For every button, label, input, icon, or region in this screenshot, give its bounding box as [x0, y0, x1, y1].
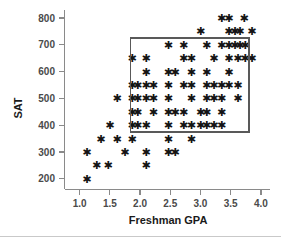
data-point: ✱: [217, 92, 226, 105]
data-point: ✱: [224, 66, 233, 79]
data-point: ✱: [187, 133, 196, 146]
data-point: ✱: [141, 66, 150, 79]
data-point: ✱: [202, 66, 211, 79]
data-point: ✱: [233, 79, 242, 92]
data-point: ✱: [224, 52, 233, 65]
data-point: ✱: [82, 146, 91, 159]
data-point: ✱: [120, 146, 129, 159]
data-point: ✱: [141, 146, 150, 159]
x-axis-title: Freshman GPA: [129, 214, 208, 226]
x-tick-label: 4.0: [254, 198, 268, 209]
data-point: ✱: [96, 133, 105, 146]
data-point: ✱: [224, 79, 233, 92]
x-tick-label: 2.0: [133, 198, 147, 209]
data-point: ✱: [209, 52, 218, 65]
x-tick-label: 3.0: [194, 198, 208, 209]
data-point: ✱: [187, 92, 196, 105]
data-point: ✱: [141, 52, 150, 65]
x-tick-label: 3.5: [224, 198, 238, 209]
data-point: ✱: [164, 39, 173, 52]
data-point: ✱: [187, 119, 196, 132]
data-point: ✱: [247, 25, 256, 38]
data-point: ✱: [217, 119, 226, 132]
data-point: ✱: [105, 119, 114, 132]
data-point: ✱: [149, 106, 158, 119]
data-point: ✱: [112, 92, 121, 105]
data-point: ✱: [141, 159, 150, 172]
data-point: ✱: [235, 25, 244, 38]
data-point: ✱: [233, 92, 242, 105]
data-point: ✱: [224, 12, 233, 25]
data-point: ✱: [112, 133, 121, 146]
y-tick-label: 700: [38, 39, 55, 50]
data-point: ✱: [164, 79, 173, 92]
data-point: ✱: [196, 25, 205, 38]
scatter-chart: 200300400500600700800 1.01.52.02.53.03.5…: [0, 0, 281, 238]
data-point: ✱: [128, 52, 137, 65]
data-point: ✱: [128, 133, 137, 146]
x-tick-label: 1.0: [73, 198, 87, 209]
data-point: ✱: [141, 119, 150, 132]
data-point: ✱: [170, 146, 179, 159]
data-point: ✱: [187, 52, 196, 65]
data-point: ✱: [164, 92, 173, 105]
data-point: ✱: [149, 92, 158, 105]
data-point: ✱: [217, 106, 226, 119]
y-tick-label: 300: [38, 147, 55, 158]
data-point: ✱: [179, 39, 188, 52]
plot-area: 200300400500600700800 1.01.52.02.53.03.5…: [0, 0, 281, 238]
data-point: ✱: [103, 159, 112, 172]
data-point: ✱: [170, 66, 179, 79]
data-point: ✱: [164, 133, 173, 146]
data-point: ✱: [239, 12, 248, 25]
data-point: ✱: [179, 106, 188, 119]
y-tick-label: 800: [38, 13, 55, 24]
data-point: ✱: [133, 106, 142, 119]
y-tick-label: 600: [38, 66, 55, 77]
x-axis-ticks: 1.01.52.02.53.03.54.0: [73, 190, 269, 210]
data-point: ✱: [202, 39, 211, 52]
y-tick-label: 400: [38, 120, 55, 131]
x-tick-label: 1.5: [103, 198, 117, 209]
data-point: ✱: [187, 66, 196, 79]
data-point: ✱: [187, 79, 196, 92]
data-point: ✱: [149, 79, 158, 92]
y-axis-ticks: 200300400500600700800: [38, 13, 64, 185]
data-point: ✱: [92, 159, 101, 172]
x-tick-label: 2.5: [163, 198, 177, 209]
y-axis-title: SAT: [12, 97, 24, 118]
y-tick-label: 500: [38, 93, 55, 104]
data-point: ✱: [164, 119, 173, 132]
data-point: ✱: [82, 173, 91, 186]
data-point: ✱: [202, 106, 211, 119]
y-tick-label: 200: [38, 173, 55, 184]
